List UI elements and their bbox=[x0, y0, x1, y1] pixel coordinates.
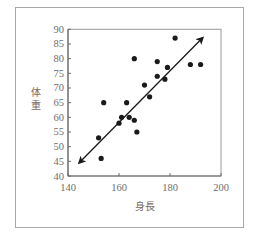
y-tick-label: 45 bbox=[54, 156, 65, 167]
data-point bbox=[132, 56, 137, 61]
data-point bbox=[188, 62, 193, 67]
y-axis-label: 重 bbox=[31, 99, 41, 111]
trend-arrow-line bbox=[79, 38, 202, 163]
y-tick-label: 90 bbox=[54, 24, 65, 35]
data-point bbox=[134, 129, 139, 134]
data-point bbox=[142, 82, 147, 87]
y-tick-label: 60 bbox=[54, 112, 65, 123]
scatter-chart: 4045505560657075808590 140160180200 体 重 … bbox=[0, 0, 253, 240]
data-point bbox=[124, 100, 129, 105]
y-tick-label: 65 bbox=[54, 97, 65, 108]
data-point bbox=[155, 59, 160, 64]
data-point bbox=[99, 156, 104, 161]
x-tick-label: 200 bbox=[213, 182, 229, 193]
data-point bbox=[101, 100, 106, 105]
y-tick-label: 70 bbox=[54, 82, 65, 93]
x-axis-label: 身長 bbox=[135, 200, 155, 212]
x-tick-label: 140 bbox=[60, 182, 76, 193]
data-point bbox=[127, 115, 132, 120]
y-tick-label: 85 bbox=[54, 38, 65, 49]
plot-area-border bbox=[68, 29, 221, 176]
y-tick-label: 50 bbox=[54, 141, 65, 152]
y-tick-label: 40 bbox=[54, 171, 65, 182]
x-tick-label: 160 bbox=[111, 182, 127, 193]
data-point bbox=[173, 36, 178, 41]
data-point bbox=[132, 118, 137, 123]
data-point bbox=[165, 65, 170, 70]
data-point bbox=[147, 94, 152, 99]
y-tick-label: 80 bbox=[54, 53, 65, 64]
data-point bbox=[198, 62, 203, 67]
data-point bbox=[96, 135, 101, 140]
y-axis-label: 体 bbox=[31, 87, 41, 98]
y-tick-label: 75 bbox=[54, 68, 65, 79]
y-tick-label: 55 bbox=[54, 126, 65, 137]
data-point bbox=[155, 74, 160, 79]
x-tick-label: 180 bbox=[162, 182, 178, 193]
axes bbox=[68, 29, 221, 176]
trend-arrow bbox=[79, 38, 202, 163]
